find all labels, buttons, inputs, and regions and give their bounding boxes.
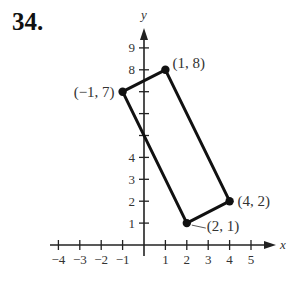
x-tick-label: 3 — [205, 252, 212, 267]
x-tick-label: −3 — [73, 252, 87, 267]
vertex-point — [118, 88, 126, 96]
y-axis-arrow-icon — [140, 28, 148, 40]
label-leader-line — [192, 225, 206, 228]
rectangle-shape — [123, 70, 230, 223]
x-tick-label: −4 — [51, 252, 65, 267]
x-tick-label: 5 — [248, 252, 255, 267]
vertex-point — [183, 219, 191, 227]
y-tick-label: 1 — [129, 216, 136, 231]
x-tick-label: 1 — [162, 252, 169, 267]
vertex-label: (2, 1) — [207, 218, 240, 235]
y-tick-label: 8 — [129, 62, 136, 77]
y-tick-label: 2 — [129, 194, 136, 209]
x-tick-label: −2 — [94, 252, 108, 267]
vertex-point — [161, 66, 169, 74]
x-axis-arrow-icon — [264, 241, 276, 249]
x-tick-label: 4 — [226, 252, 233, 267]
y-tick-label: 3 — [129, 172, 136, 187]
y-axis-label: y — [139, 7, 147, 22]
y-tick-label: 9 — [129, 40, 136, 55]
y-tick-label: 4 — [129, 150, 136, 165]
vertex-point — [225, 197, 233, 205]
vertex-label: (4, 2) — [238, 193, 271, 210]
x-tick-label: 2 — [184, 252, 191, 267]
vertex-label: (−1, 7) — [74, 84, 115, 101]
x-tick-label: −1 — [116, 252, 130, 267]
coordinate-plot: xy −4−3−2−112345123489 (−1, 7)(1, 8)(4, … — [0, 0, 294, 299]
rectangle-outline — [123, 70, 230, 223]
x-axis-label: x — [279, 237, 286, 252]
axes: xy — [50, 7, 286, 256]
vertex-label: (1, 8) — [172, 55, 205, 72]
